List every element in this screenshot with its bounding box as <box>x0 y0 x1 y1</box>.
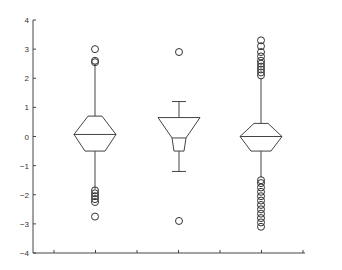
box-2 <box>158 49 200 225</box>
y-tick-label: −4 <box>20 249 30 258</box>
outlier-marker <box>176 217 183 224</box>
outlier-marker <box>92 46 99 53</box>
box-3 <box>240 37 282 230</box>
y-tick-label: 1 <box>25 103 30 112</box>
y-tick-label: −1 <box>20 162 30 171</box>
y-tick-label: 0 <box>25 133 30 142</box>
outlier-marker <box>92 213 99 220</box>
y-tick-label: −2 <box>20 191 30 200</box>
y-tick-label: 4 <box>25 16 30 25</box>
notched-box <box>158 118 200 151</box>
outlier-marker <box>258 223 265 230</box>
boxes <box>74 37 282 230</box>
outlier-marker <box>176 49 183 56</box>
y-axis: 43210−1−2−3−4 <box>20 16 36 258</box>
box-plot-chart: 43210−1−2−3−4 <box>0 0 342 270</box>
y-tick-label: 2 <box>25 74 30 83</box>
y-tick-label: 3 <box>25 45 30 54</box>
notched-box <box>74 116 116 151</box>
y-tick-label: −3 <box>20 220 30 229</box>
x-axis <box>33 250 305 253</box>
box-1 <box>74 46 116 220</box>
notched-box <box>240 123 282 151</box>
